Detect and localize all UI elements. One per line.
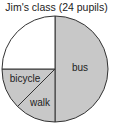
label-bicycle: bicycle <box>10 73 41 84</box>
pie-chart: bus walk bicycle <box>0 0 113 128</box>
label-bus: bus <box>72 62 88 73</box>
label-walk: walk <box>29 97 51 108</box>
slice-unlabeled <box>2 16 55 69</box>
